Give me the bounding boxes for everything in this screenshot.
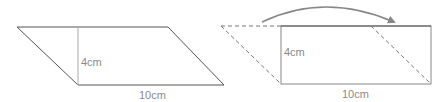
base-label: 10cm	[342, 88, 369, 100]
area-transformation-diagram: 4cm 10cm 4cm 10cm	[0, 0, 447, 102]
right-rectangle-figure: 4cm 10cm	[221, 7, 431, 100]
parallelogram-outline	[17, 27, 224, 85]
height-label: 4cm	[81, 56, 102, 68]
base-label: 10cm	[139, 89, 166, 101]
curved-arrow-icon	[262, 7, 394, 22]
height-label: 4cm	[284, 46, 305, 58]
dashed-left-diagonal	[221, 26, 281, 84]
left-parallelogram-figure: 4cm 10cm	[17, 27, 224, 101]
dashed-right-diagonal	[371, 26, 431, 84]
